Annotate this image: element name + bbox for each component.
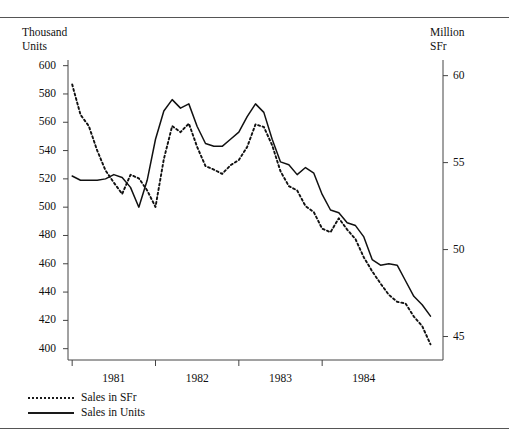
chart-figure: Thousand Units Million SFr Sales in SFr … [0,0,509,445]
y-axis-tick-left: 540 [26,145,56,157]
left-axis-caption: Thousand Units [22,26,67,53]
y-axis-tick-left: 440 [26,286,56,298]
y-axis-tick-left: 460 [26,258,56,270]
y-axis-tick-left: 580 [26,88,56,100]
x-axis-tick-label: 1984 [334,372,394,384]
legend-label-sales-units: Sales in Units [81,405,145,420]
y-axis-tick-left: 500 [26,201,56,213]
x-axis-tick-label: 1982 [167,372,227,384]
y-axis-tick-right: 45 [453,331,483,343]
y-axis-tick-left: 480 [26,229,56,241]
x-axis-tick-label: 1983 [251,372,311,384]
y-axis-tick-left: 420 [26,314,56,326]
series-line-sales-in-sfr [72,84,430,344]
y-axis-tick-right: 60 [453,70,483,82]
legend-item-sales-units: Sales in Units [28,405,145,420]
y-axis-tick-right: 50 [453,244,483,256]
legend-label-sales-sfr: Sales in SFr [81,390,137,405]
y-axis-tick-left: 600 [26,60,56,72]
bottom-divider-rule [0,428,509,429]
legend-item-sales-sfr: Sales in SFr [28,390,145,405]
y-axis-tick-left: 400 [26,343,56,355]
series-line-sales-in-units [72,100,430,317]
top-divider-rule [0,17,509,18]
y-axis-tick-left: 520 [26,173,56,185]
chart-legend: Sales in SFr Sales in Units [28,390,145,420]
y-axis-tick-right: 55 [453,157,483,169]
y-axis-tick-left: 560 [26,116,56,128]
right-axis-caption: Million SFr [430,26,465,53]
x-axis-tick-label: 1981 [84,372,144,384]
